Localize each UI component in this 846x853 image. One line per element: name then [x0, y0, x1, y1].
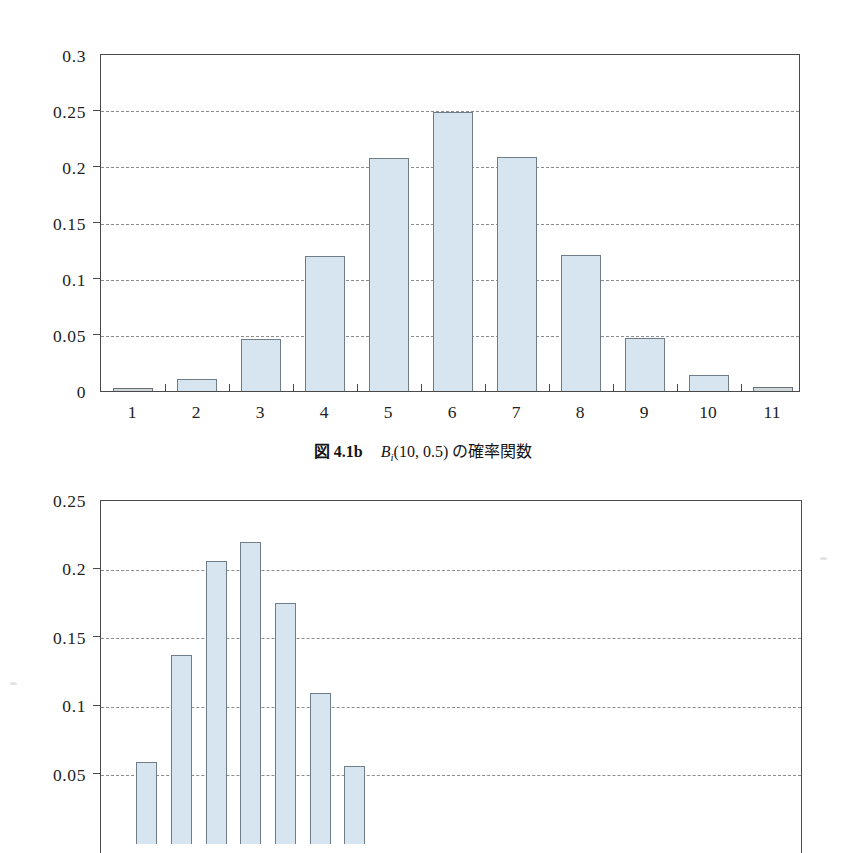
- y-tick-mark: [93, 278, 100, 279]
- x-tick-mark: [613, 384, 614, 391]
- x-tick-label: 2: [166, 404, 226, 422]
- bar-category-5: [369, 158, 409, 391]
- chart-top-binomial: 0.3 0.25 0.2 0.15 0.1 0.05 0: [0, 0, 846, 430]
- y-tick-label: 0.1: [20, 698, 86, 716]
- bar-category-3: [241, 339, 281, 391]
- scan-speck: [10, 682, 17, 685]
- bar-category-1: [136, 762, 157, 844]
- y-tick-label: 0.25: [20, 104, 86, 122]
- y-tick-label: 0.15: [20, 630, 86, 648]
- bar-category-2: [171, 655, 192, 844]
- x-tick-mark: [229, 384, 230, 391]
- x-tick-label: 5: [358, 404, 418, 422]
- bar-category-2: [177, 379, 217, 391]
- y-tick-mark: [93, 222, 100, 223]
- caption-math-args: (10, 0.5): [394, 443, 449, 460]
- x-tick-label: 9: [614, 404, 674, 422]
- x-tick-label: 10: [678, 404, 738, 422]
- bar-category-11: [753, 387, 793, 391]
- y-tick-mark: [93, 773, 100, 774]
- bar-category-4: [305, 256, 345, 391]
- x-tick-mark: [485, 384, 486, 391]
- chart-bottom-poisson: 0.25 0.2 0.15 0.1 0.05: [0, 490, 846, 796]
- bar-category-10: [689, 375, 729, 391]
- x-tick-mark: [357, 384, 358, 391]
- bar-category-7: [344, 766, 365, 844]
- plot-area-bottom: [100, 500, 802, 853]
- x-tick-mark: [165, 384, 166, 391]
- bar-category-5: [275, 603, 296, 844]
- plot-area-top: [100, 54, 800, 392]
- bar-category-1: [113, 388, 153, 391]
- scan-speck: [820, 557, 827, 560]
- y-tick-label: 0.25: [20, 493, 86, 511]
- y-tick-mark: [93, 705, 100, 706]
- x-tick-label: 4: [294, 404, 354, 422]
- x-tick-label: 8: [550, 404, 610, 422]
- y-tick-label: 0: [20, 384, 86, 402]
- y-tick-mark: [93, 334, 100, 335]
- caption-label: 図 4.1b: [314, 443, 363, 460]
- caption-suffix: の確率関数: [448, 443, 532, 460]
- x-tick-label: 7: [486, 404, 546, 422]
- y-tick-label: 0.2: [20, 160, 86, 178]
- y-tick-label: 0.2: [20, 561, 86, 579]
- x-tick-mark: [677, 384, 678, 391]
- y-tick-label: 0.1: [20, 272, 86, 290]
- y-tick-label: 0.05: [20, 328, 86, 346]
- y-tick-label: 0.05: [20, 767, 86, 785]
- x-tick-mark: [741, 384, 742, 391]
- bar-category-7: [497, 157, 537, 391]
- bar-category-4: [240, 542, 261, 844]
- y-tick-mark: [93, 568, 100, 569]
- y-tick-mark: [93, 110, 100, 111]
- x-tick-mark: [421, 384, 422, 391]
- y-tick-label: 0.15: [20, 216, 86, 234]
- bar-category-9: [625, 338, 665, 391]
- figure-caption: 図 4.1bBi(10, 0.5) の確率関数: [0, 443, 846, 463]
- x-tick-label: 3: [230, 404, 290, 422]
- x-tick-mark: [293, 384, 294, 391]
- bar-category-6: [433, 112, 473, 391]
- x-tick-label: 11: [742, 404, 802, 422]
- y-tick-mark: [93, 166, 100, 167]
- x-tick-mark: [549, 384, 550, 391]
- x-tick-label: 1: [102, 404, 162, 422]
- bar-category-8: [561, 255, 601, 391]
- bar-category-3: [206, 561, 227, 844]
- y-tick-mark: [93, 636, 100, 637]
- x-tick-label: 6: [422, 404, 482, 422]
- y-tick-label: 0.3: [20, 48, 86, 66]
- bar-category-6: [310, 693, 331, 844]
